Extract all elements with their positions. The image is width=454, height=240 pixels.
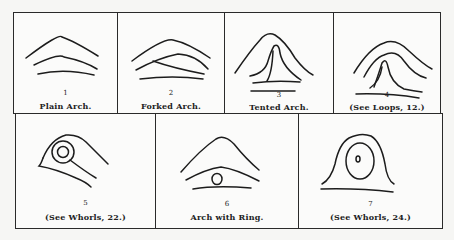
panel-see-whorls-24: 7 (See Whorls, 24.) [298, 113, 443, 229]
panel-plain-arch: 1 Plain Arch. [13, 12, 118, 114]
figure-caption: Forked Arch. [118, 101, 224, 111]
panel-forked-arch: 2 Forked Arch. [117, 12, 225, 114]
figure-number: 4 [334, 91, 440, 99]
figure-number: 2 [118, 89, 224, 97]
figure-caption: (See Whorls, 22.) [16, 212, 155, 222]
panel-see-loops: 4 (See Loops, 12.) [333, 12, 441, 114]
figure-number: 6 [156, 200, 298, 208]
tented-arch-figure [225, 13, 335, 115]
figure-caption: Tented Arch. [225, 102, 333, 112]
figure-caption: (See Whorls, 24.) [299, 212, 442, 222]
figure-number: 5 [16, 199, 155, 207]
figure-caption: Arch with Ring. [156, 212, 298, 222]
panel-tented-arch: 3 Tented Arch. [224, 12, 334, 114]
figure-number: 7 [299, 200, 442, 208]
loop-arch-figure [334, 13, 442, 115]
figure-caption: Plain Arch. [14, 101, 117, 111]
figure-number: 3 [225, 91, 333, 99]
panel-see-whorls-22: 5 (See Whorls, 22.) [15, 113, 156, 229]
figure-caption: (See Loops, 12.) [334, 102, 440, 112]
plain-arch-figure [14, 13, 119, 115]
figure-number: 1 [14, 89, 117, 97]
panel-arch-with-ring: 6 Arch with Ring. [155, 113, 299, 229]
forked-arch-figure [118, 13, 226, 115]
